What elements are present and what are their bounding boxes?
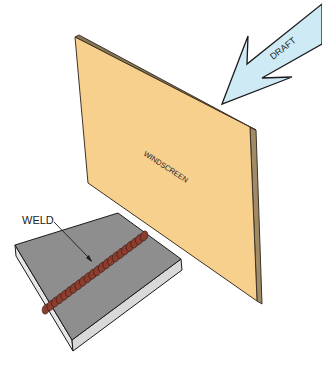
weld-windscreen-diagram: WINDSCREEN DRAFT WELD xyxy=(0,0,322,365)
metal-plate xyxy=(15,213,182,351)
draft-arrow: DRAFT xyxy=(222,4,322,104)
weld-label: WELD xyxy=(22,214,54,226)
